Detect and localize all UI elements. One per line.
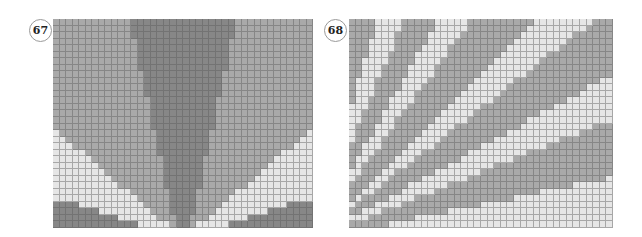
grid-cell: [455, 221, 462, 228]
pattern-grid-67: [53, 19, 313, 228]
grid-cell: [587, 221, 594, 228]
grid-cell: [534, 221, 541, 228]
grid-cell: [580, 221, 587, 228]
grid-cell: [527, 221, 534, 228]
grid-cell: [461, 221, 468, 228]
label-67: 67: [29, 19, 52, 42]
grid-cell: [481, 221, 488, 228]
grid-cell: [521, 221, 528, 228]
grid-cell: [395, 221, 402, 228]
grid-cell: [428, 221, 435, 228]
grid-cell: [474, 221, 481, 228]
grid-cell: [488, 221, 495, 228]
grid-cell: [606, 221, 613, 228]
grid-cell: [573, 221, 580, 228]
grid-cell: [307, 221, 314, 228]
grid-cell: [408, 221, 415, 228]
grid-cell: [501, 221, 508, 228]
grid-cell: [441, 221, 448, 228]
grid-cell: [567, 221, 574, 228]
grid-cell: [560, 221, 567, 228]
grid-cell: [448, 221, 455, 228]
grid-cell: [356, 221, 363, 228]
grid-cell: [600, 221, 607, 228]
grid-cell: [554, 221, 561, 228]
grid-cell: [514, 221, 521, 228]
grid-cell: [494, 221, 501, 228]
grid-cell: [507, 221, 514, 228]
grid-cell: [349, 221, 356, 228]
grid-cell: [415, 221, 422, 228]
grid-cell: [389, 221, 396, 228]
pattern-grid-68: [349, 19, 613, 228]
grid-cell: [435, 221, 442, 228]
grid-cell: [375, 221, 382, 228]
label-68: 68: [324, 19, 347, 42]
grid-cell: [540, 221, 547, 228]
grid-cell: [547, 221, 554, 228]
grid-cell: [382, 221, 389, 228]
grid-cell: [402, 221, 409, 228]
grid-cell: [468, 221, 475, 228]
grid-cell: [593, 221, 600, 228]
grid-cell: [422, 221, 429, 228]
grid-cell: [362, 221, 369, 228]
grid-cell: [369, 221, 376, 228]
